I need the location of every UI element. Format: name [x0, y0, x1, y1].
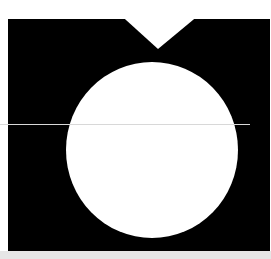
white-circle [66, 62, 238, 238]
bottom-bar [0, 251, 271, 259]
triangle-notch-icon [0, 0, 271, 60]
horizontal-divider [0, 124, 250, 125]
